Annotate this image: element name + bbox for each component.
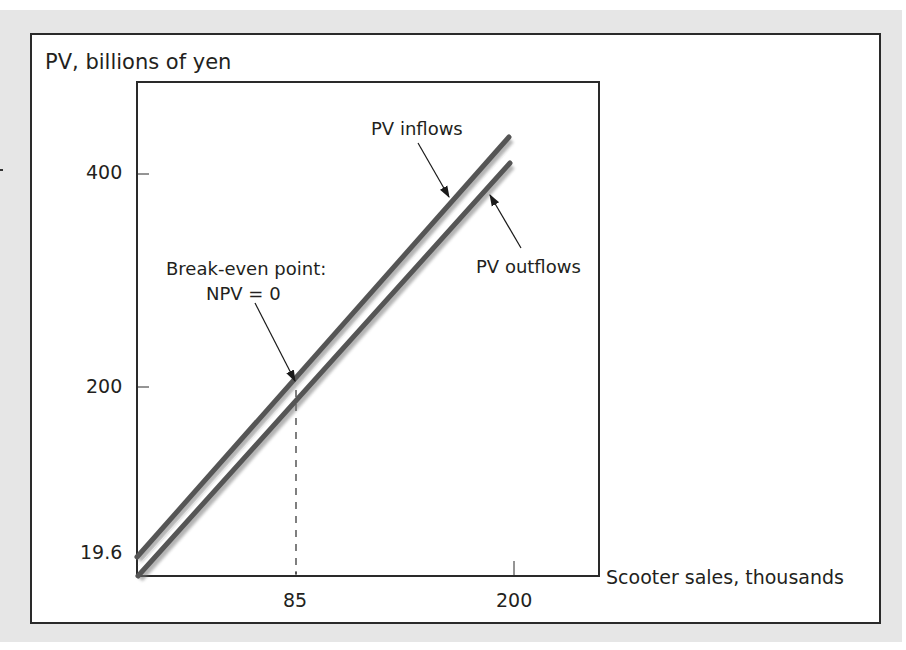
y-tick-label-200: 200 (86, 377, 122, 396)
pv-inflows-arrow (418, 143, 449, 197)
breakeven-arrow (255, 303, 295, 381)
y-tick-label-400: 400 (86, 163, 122, 182)
x-tick-label-85: 85 (283, 591, 307, 610)
x-axis-title: Scooter sales, thousands (606, 568, 844, 587)
y-tick-label-19-6: 19.6 (80, 543, 122, 562)
chart-svg (0, 0, 906, 650)
breakeven-label-line2: NPV = 0 (206, 285, 281, 303)
breakeven-label-line1: Break-even point: (166, 260, 326, 278)
pv-outflows-line (138, 163, 510, 576)
pv-outflows-arrow (490, 195, 521, 248)
y-axis-title: PV, billions of yen (45, 52, 231, 73)
pv-outflows-label: PV outflows (476, 258, 581, 276)
x-tick-label-200: 200 (496, 591, 532, 610)
pv-inflows-line (137, 137, 509, 557)
pv-inflows-label: PV inflows (371, 120, 463, 138)
